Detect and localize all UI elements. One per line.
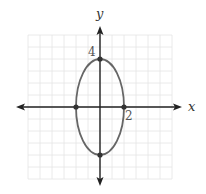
y-tick-label-4: 4 xyxy=(88,45,96,59)
vertex-point xyxy=(97,152,102,157)
vertex-point xyxy=(97,56,102,61)
ellipse-graph: y x 4 2 xyxy=(0,0,206,194)
x-axis-label: x xyxy=(188,99,196,114)
vertex-point xyxy=(73,104,78,109)
x-tick-label-2: 2 xyxy=(125,109,133,123)
axes xyxy=(16,26,182,186)
y-axis-label: y xyxy=(95,6,104,21)
